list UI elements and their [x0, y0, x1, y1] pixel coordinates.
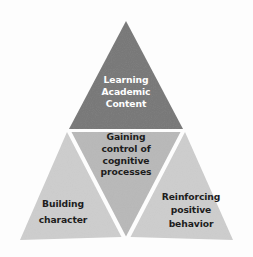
pyramid-shapes: [0, 0, 253, 257]
segment-top-learning-academic-content: [69, 21, 183, 129]
pyramid-diagram: Learning Academic Content Gaining contro…: [0, 0, 253, 257]
